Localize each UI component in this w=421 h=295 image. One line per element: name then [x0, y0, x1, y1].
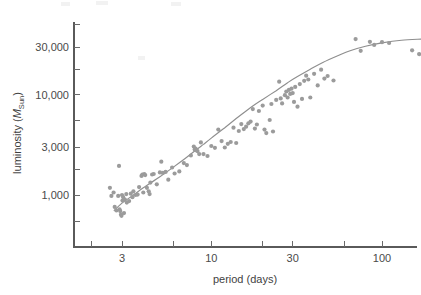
data-point: [368, 40, 372, 44]
data-point: [292, 100, 296, 104]
x-axis-ticks: 31030100: [92, 241, 391, 264]
data-point: [251, 107, 255, 111]
data-point: [223, 145, 227, 149]
data-point: [234, 141, 238, 145]
data-point: [255, 122, 259, 126]
data-point: [213, 146, 217, 150]
data-point: [148, 192, 152, 196]
fit-curve-path: [114, 39, 421, 210]
data-point: [189, 153, 193, 157]
data-point: [185, 163, 189, 167]
data-point: [410, 48, 414, 52]
data-point: [279, 96, 283, 100]
data-point: [316, 83, 320, 87]
data-point: [269, 102, 273, 106]
data-point: [387, 41, 391, 45]
data-point: [237, 129, 241, 133]
data-point: [268, 118, 272, 122]
data-point: [306, 77, 310, 81]
y-tick-label: 1,000: [41, 189, 69, 201]
data-point: [326, 74, 330, 78]
data-point: [271, 129, 275, 133]
data-point: [319, 68, 323, 72]
data-point: [205, 154, 209, 158]
data-point: [239, 122, 243, 126]
data-point: [136, 193, 140, 197]
data-point: [127, 199, 131, 203]
data-point: [117, 164, 121, 168]
data-point: [216, 128, 220, 132]
data-point: [131, 189, 135, 193]
data-point: [304, 74, 308, 78]
y-tick-label: 3,000: [41, 141, 69, 153]
data-point: [141, 190, 145, 194]
data-point: [291, 91, 295, 95]
data-points: [108, 37, 421, 218]
x-tick-label: 3: [119, 252, 125, 264]
data-point: [209, 144, 213, 148]
data-point: [148, 181, 152, 185]
y-tick-label: 10,000: [35, 89, 69, 101]
data-point: [112, 190, 116, 194]
data-point: [286, 95, 290, 99]
data-point: [173, 171, 177, 175]
y-axis-title-prefix: luminosity (: [11, 118, 23, 174]
scatter-plot-svg: 1,0003,00010,00030,000 31030100 period (…: [0, 0, 421, 295]
data-point: [293, 85, 297, 89]
data-point: [274, 98, 278, 102]
x-tick-label: 10: [205, 252, 217, 264]
data-point: [280, 101, 284, 105]
data-point: [166, 178, 170, 182]
data-point: [417, 52, 421, 56]
plot-area: [108, 37, 421, 218]
fit-curve: [114, 39, 421, 210]
data-point: [201, 152, 205, 156]
data-point: [312, 72, 316, 76]
scan-artifacts: [61, 1, 181, 60]
data-point: [264, 131, 268, 135]
y-tick-label: 30,000: [35, 41, 69, 53]
data-point: [302, 79, 306, 83]
data-point: [249, 120, 253, 124]
y-axis-title: luminosity (MSun): [11, 92, 26, 174]
data-point: [372, 43, 376, 47]
y-axis-ticks: 1,0003,00010,00030,000: [35, 25, 80, 221]
svg-text:luminosity (MSun): luminosity (MSun): [11, 92, 26, 174]
data-point: [199, 140, 203, 144]
data-point: [331, 78, 335, 82]
data-point: [354, 37, 358, 41]
y-axis-title-suffix: ): [11, 92, 23, 96]
data-point: [113, 205, 117, 209]
data-point: [298, 82, 302, 86]
data-point: [261, 104, 265, 108]
data-point: [277, 80, 281, 84]
chart-figure: 1,0003,00010,00030,000 31030100 period (…: [0, 0, 421, 295]
data-point: [124, 192, 128, 196]
data-point: [300, 97, 304, 101]
data-point: [155, 182, 159, 186]
data-point: [380, 40, 384, 44]
data-point: [143, 173, 147, 177]
data-point: [164, 170, 168, 174]
data-point: [308, 95, 312, 99]
data-point: [137, 185, 141, 189]
x-axis-title: period (days): [213, 273, 277, 285]
data-point: [220, 139, 224, 143]
x-tick-label: 30: [287, 252, 299, 264]
data-point: [257, 109, 261, 113]
data-point: [170, 165, 174, 169]
data-point: [108, 186, 112, 190]
x-tick-label: 100: [373, 252, 391, 264]
data-point: [244, 125, 248, 129]
data-point: [359, 49, 363, 53]
data-point: [229, 140, 233, 144]
y-axis-title-subscript: Sun: [17, 96, 26, 109]
data-point: [295, 105, 299, 109]
data-point: [197, 152, 201, 156]
data-point: [122, 211, 126, 215]
data-point: [177, 169, 181, 173]
data-point: [231, 126, 235, 130]
data-point: [253, 127, 257, 131]
data-point: [152, 172, 156, 176]
data-point: [116, 194, 120, 198]
